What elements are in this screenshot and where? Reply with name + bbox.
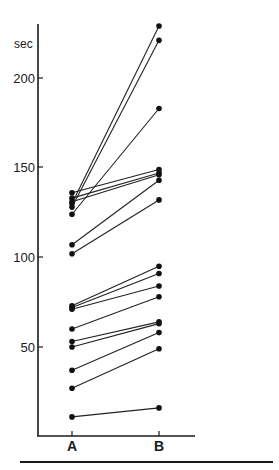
y-tick-label-100: 100: [13, 250, 35, 265]
data-point-a: [69, 326, 75, 332]
pair-connector-line: [72, 200, 159, 254]
data-point-b: [156, 271, 162, 277]
pair-8: [69, 197, 162, 256]
data-point-a: [69, 251, 75, 257]
data-point-a: [69, 204, 75, 210]
data-point-a: [69, 339, 75, 345]
x-category-label-a: A: [67, 438, 77, 454]
data-point-b: [156, 321, 162, 327]
pair-17: [69, 405, 162, 420]
y-tick-label-150: 150: [13, 160, 35, 175]
data-point-a: [69, 385, 75, 391]
data-point-a: [69, 199, 75, 205]
data-point-a: [69, 242, 75, 248]
pair-connector-line: [72, 273, 159, 307]
pair-connector-line: [72, 266, 159, 305]
pair-3: [69, 106, 162, 217]
data-point-b: [156, 294, 162, 300]
pair-16: [69, 346, 162, 391]
x-category-label-b: B: [154, 438, 164, 454]
pair-connector-line: [72, 297, 159, 329]
data-point-b: [156, 197, 162, 203]
pair-11: [69, 283, 162, 312]
pair-connector-line: [72, 349, 159, 388]
pair-connector-line: [72, 324, 159, 347]
pair-10: [69, 271, 162, 311]
paired-dot-chart: sec 50 100 150 200 A B: [0, 0, 279, 470]
data-point-b: [156, 405, 162, 411]
data-point-b: [156, 38, 162, 44]
data-point-b: [156, 172, 162, 178]
data-point-b: [156, 263, 162, 269]
data-point-a: [69, 211, 75, 217]
pair-9: [69, 263, 162, 308]
pair-2: [69, 38, 162, 210]
pair-connector-line: [72, 180, 159, 245]
pair-13: [69, 319, 162, 344]
data-point-b: [156, 330, 162, 336]
data-point-a: [69, 306, 75, 312]
data-point-b: [156, 346, 162, 352]
y-tick-label-50: 50: [21, 340, 35, 355]
data-point-b: [156, 177, 162, 183]
paired-observations: [69, 23, 162, 419]
data-point-a: [69, 414, 75, 420]
pair-connector-line: [72, 408, 159, 417]
pair-connector-line: [72, 175, 159, 202]
data-point-b: [156, 106, 162, 112]
y-tick-label-200: 200: [13, 71, 35, 86]
pair-15: [69, 330, 162, 373]
data-point-b: [156, 23, 162, 29]
data-point-b: [156, 283, 162, 289]
data-point-a: [69, 344, 75, 350]
data-point-a: [69, 190, 75, 196]
pair-connector-line: [72, 286, 159, 309]
data-point-a: [69, 367, 75, 373]
y-axis-unit-label: sec: [14, 37, 33, 51]
pair-1: [69, 23, 162, 206]
